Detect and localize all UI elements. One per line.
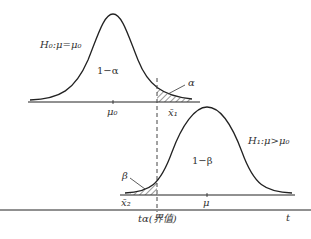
mu0-label: μ₀ [107,106,118,117]
x1-label: x̄₁ [168,107,178,118]
alpha-pointer [168,85,185,94]
alpha-label: α [188,77,195,88]
beta-label: β [121,170,128,181]
x2-label: x̄₂ [121,197,131,208]
h1-curve [125,107,292,193]
mu-label: μ [203,197,210,208]
critical-value-label: tα(界值) [138,213,177,224]
beta-pointer [130,178,145,189]
h0-curve [30,14,192,100]
h0-label: H₀:μ=μ₀ [39,39,81,50]
h1-label: H₁:μ>μ₀ [247,135,289,146]
one-minus-alpha-label: 1−α [97,65,119,76]
alpha-region [157,87,192,102]
hypothesis-test-diagram: H₀:μ=μ₀ 1−α α μ₀ x̄₁ H₁:μ>μ₀ 1−β β x̄₂ μ… [0,0,311,239]
one-minus-beta-label: 1−β [192,155,213,166]
t-axis-label: t [286,212,291,223]
